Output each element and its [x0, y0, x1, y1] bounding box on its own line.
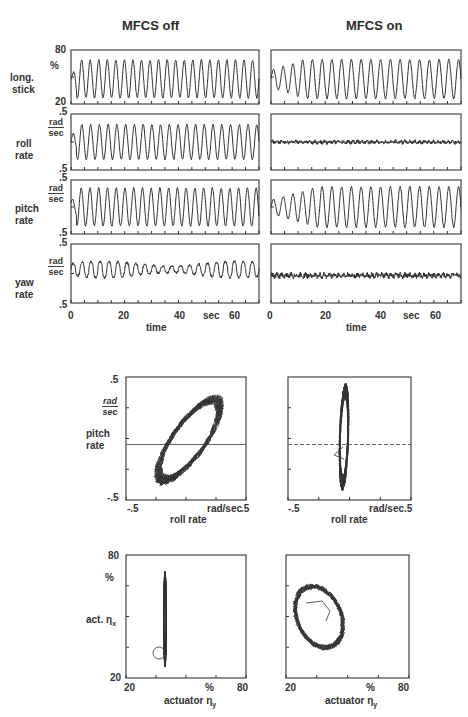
x-tick-right: .5 [404, 503, 412, 514]
trace-off-actuator-loop [153, 647, 165, 659]
x-tick-60: 60 [229, 310, 240, 321]
x-tick-20: 20 [118, 310, 129, 321]
x-tick-40: 40 [174, 310, 185, 321]
trace-off-long-stick [71, 60, 259, 99]
x-axis-label: roll rate [170, 514, 207, 525]
x-tick-left: 20 [285, 682, 296, 693]
time-panel-on-3 [271, 244, 461, 303]
y-label-sub: x [112, 620, 116, 627]
x-label-sub: y [373, 701, 377, 708]
x-axis-label: actuator ηy [164, 695, 216, 708]
trace-off-pitch-vs-roll [154, 395, 224, 486]
y-tick-top: .5 [110, 374, 118, 385]
y-tick-top: 80 [108, 550, 119, 561]
phase-plot-off-rates [126, 377, 246, 500]
chart-canvas [0, 0, 468, 717]
x-tick-40: 40 [375, 310, 386, 321]
x-axis-label: roll rate [331, 514, 368, 525]
trace-on-long-stick [271, 59, 461, 99]
phase-plot-on-actuators [286, 555, 409, 678]
time-panel-on-0 [271, 50, 461, 104]
y-unit: % [105, 572, 114, 583]
x-unit: sec [403, 310, 420, 321]
x-tick-20: 20 [320, 310, 331, 321]
x-tick-right: .5 [241, 503, 249, 514]
trace-on-pitch-vs-roll [339, 383, 349, 490]
x-unit: rad/sec [369, 503, 404, 514]
trace-on-transient [306, 601, 330, 621]
x-tick-right: 80 [398, 682, 409, 693]
y-tick-bottom: 20 [110, 672, 121, 683]
y-label-line1: pitch [86, 428, 110, 439]
unit-denominator: sec [102, 407, 118, 417]
x-tick-0: 0 [68, 310, 74, 321]
x-label-base: actuator η [325, 695, 373, 706]
x-tick-60: 60 [430, 310, 441, 321]
x-tick-0: 0 [267, 310, 273, 321]
x-unit: sec [203, 310, 220, 321]
x-tick-left: 20 [124, 682, 135, 693]
x-unit: rad/sec [207, 503, 242, 514]
x-axis-label: time [346, 322, 367, 333]
trace-on-roll-rate [271, 140, 461, 145]
y-axis-label: act. ηx [86, 614, 116, 627]
trace-on-yaw-rate [271, 272, 461, 279]
trace-on-pitch-rate [271, 186, 461, 228]
x-label-sub: y [212, 701, 216, 708]
time-panel-off-1 [71, 114, 259, 170]
trace-off-roll-rate [71, 124, 259, 160]
trace-on-actuators [293, 584, 345, 650]
time-panel-off-3 [71, 244, 259, 303]
phase-plot-off-actuators [126, 555, 246, 678]
trace-off-yaw-rate [71, 261, 259, 279]
phase-plot-on-rates [288, 377, 411, 500]
unit-numerator: rad [102, 396, 118, 407]
x-tick-right: 80 [237, 682, 248, 693]
x-tick-left: -.5 [288, 503, 300, 514]
y-tick-bottom: -.5 [107, 492, 119, 503]
x-axis-label: actuator ηy [325, 695, 377, 708]
trace-off-pitch-rate [71, 187, 259, 226]
x-tick-left: -.5 [127, 503, 139, 514]
x-axis-label: time [146, 322, 167, 333]
x-unit: % [205, 682, 214, 693]
x-label-base: actuator η [164, 695, 212, 706]
y-unit: rad sec [102, 396, 118, 417]
y-label-base: act. η [86, 614, 112, 625]
x-unit: % [366, 682, 375, 693]
y-label-line2: rate [86, 440, 104, 451]
